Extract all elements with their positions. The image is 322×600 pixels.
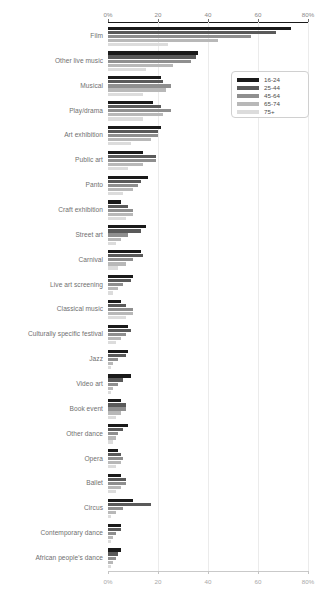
x-tick-mark-bottom bbox=[108, 571, 109, 574]
bar bbox=[108, 31, 276, 34]
bar bbox=[108, 205, 128, 208]
bar bbox=[108, 60, 191, 63]
bars-container bbox=[108, 350, 128, 370]
bar bbox=[108, 105, 161, 108]
bar bbox=[108, 134, 158, 137]
category-label: Street art bbox=[75, 231, 103, 238]
bar-group: Jazz bbox=[0, 350, 322, 370]
x-tick-mark-top bbox=[258, 19, 259, 22]
legend-label: 16-24 bbox=[264, 76, 280, 84]
category-label: Other live music bbox=[55, 57, 103, 64]
bar bbox=[108, 383, 118, 386]
legend-swatch bbox=[237, 78, 259, 81]
bar bbox=[108, 258, 133, 261]
bar bbox=[108, 362, 113, 365]
bars-container bbox=[108, 424, 128, 444]
bar bbox=[108, 238, 121, 241]
bar bbox=[108, 84, 171, 87]
bar bbox=[108, 176, 148, 179]
bars-container bbox=[108, 101, 171, 121]
bar bbox=[108, 304, 126, 307]
bar bbox=[108, 440, 113, 443]
bars-container bbox=[108, 126, 161, 146]
bars-container bbox=[108, 374, 131, 394]
bar bbox=[108, 337, 121, 340]
bars-container bbox=[108, 250, 143, 270]
bar bbox=[108, 130, 158, 133]
bar bbox=[108, 474, 121, 477]
bars-container bbox=[108, 449, 123, 469]
bar-group: Street art bbox=[0, 225, 322, 245]
bar bbox=[108, 192, 123, 195]
legend-label: 45-64 bbox=[264, 92, 280, 100]
bar bbox=[108, 515, 111, 518]
bar-group: Contemporary dance bbox=[0, 524, 322, 544]
bar-group: Circus bbox=[0, 499, 322, 519]
category-label: Musical bbox=[80, 82, 103, 89]
category-label: Live art screening bbox=[50, 281, 103, 288]
bar bbox=[108, 403, 126, 406]
bars-container bbox=[108, 399, 126, 419]
bar bbox=[108, 51, 198, 54]
x-axis-tick-label-top: 80% bbox=[302, 11, 315, 18]
bars-container bbox=[108, 51, 198, 71]
bar bbox=[108, 341, 116, 344]
bars-container bbox=[108, 275, 133, 295]
bar bbox=[108, 242, 116, 245]
bar bbox=[108, 490, 116, 493]
bar bbox=[108, 76, 161, 79]
bar-group: Panto bbox=[0, 176, 322, 196]
bar-group: Video art bbox=[0, 374, 322, 394]
bar bbox=[108, 163, 143, 166]
x-axis-tick-label-top: 40 bbox=[204, 11, 211, 18]
bar bbox=[108, 333, 126, 336]
bar bbox=[108, 391, 111, 394]
bar bbox=[108, 374, 131, 377]
bar bbox=[108, 329, 131, 332]
x-axis-tick-label-top: 60 bbox=[254, 11, 261, 18]
bars-container bbox=[108, 200, 133, 220]
bar bbox=[108, 64, 173, 67]
bar bbox=[108, 287, 118, 290]
bar bbox=[108, 266, 118, 269]
legend-label: 25-44 bbox=[264, 84, 280, 92]
bar-group: Public art bbox=[0, 151, 322, 171]
category-label: Culturally specific festival bbox=[28, 330, 103, 337]
bar bbox=[108, 524, 121, 527]
bars-container bbox=[108, 76, 171, 96]
x-axis-tick-label-top: 0% bbox=[103, 11, 112, 18]
legend-swatch bbox=[237, 110, 259, 113]
bar bbox=[108, 486, 121, 489]
bar bbox=[108, 209, 133, 212]
x-tick-mark-bottom bbox=[308, 571, 309, 574]
bar-group: Art exhibition bbox=[0, 126, 322, 146]
legend-item[interactable]: 45-64 bbox=[237, 92, 304, 100]
bar bbox=[108, 155, 156, 158]
legend-item[interactable]: 16-24 bbox=[237, 76, 304, 84]
bar bbox=[108, 540, 111, 543]
bars-container bbox=[108, 27, 291, 47]
category-label: Film bbox=[90, 32, 103, 39]
category-label: Video art bbox=[76, 380, 103, 387]
bar bbox=[108, 499, 133, 502]
x-axis-tick-label-bottom: 0% bbox=[103, 578, 112, 585]
legend-item[interactable]: 25-44 bbox=[237, 84, 304, 92]
x-axis-tick-label-bottom: 20 bbox=[154, 578, 161, 585]
bar bbox=[108, 27, 291, 30]
bar-group: Opera bbox=[0, 449, 322, 469]
x-axis-tick-label-bottom: 80% bbox=[302, 578, 315, 585]
bar bbox=[108, 138, 151, 141]
bar bbox=[108, 180, 141, 183]
bar bbox=[108, 93, 143, 96]
x-tick-mark-bottom bbox=[158, 571, 159, 574]
bar bbox=[108, 511, 116, 514]
bar-group: Ballet bbox=[0, 474, 322, 494]
bar bbox=[108, 68, 146, 71]
x-tick-mark-bottom bbox=[258, 571, 259, 574]
legend-item[interactable]: 65-74 bbox=[237, 100, 304, 108]
bars-container bbox=[108, 325, 131, 345]
legend-item[interactable]: 75+ bbox=[237, 108, 304, 116]
bar-group: Other live music bbox=[0, 51, 322, 71]
bar bbox=[108, 532, 116, 535]
x-tick-mark-bottom bbox=[208, 571, 209, 574]
